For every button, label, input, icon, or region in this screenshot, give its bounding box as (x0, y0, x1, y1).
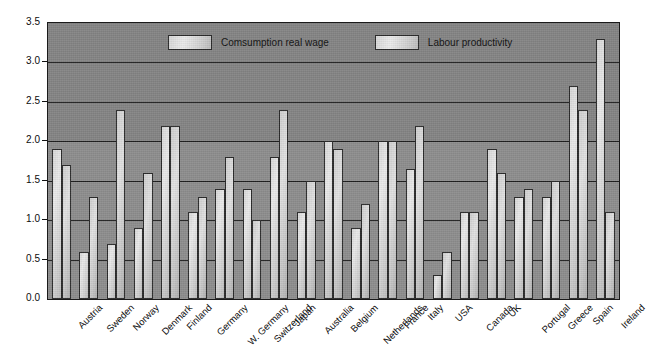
bar (279, 110, 288, 299)
bar (378, 141, 387, 299)
x-axis-tick-label: Sweden (104, 302, 136, 334)
bar (596, 39, 605, 299)
x-axis-tick-label: Australia (322, 302, 356, 336)
bar-group (510, 23, 537, 299)
bar (605, 212, 614, 299)
bar-group (184, 23, 211, 299)
legend-label-labour-productivity: Labour productivity (428, 37, 513, 48)
bar-group (48, 23, 75, 299)
bar (578, 110, 587, 299)
bar-group (130, 23, 157, 299)
y-axis-tick-label: 1.0 (0, 214, 40, 224)
legend-item-consumption-real-wage: Comsumption real wage (168, 35, 329, 50)
bar (460, 212, 469, 299)
y-axis-tick-label: 3.0 (0, 56, 40, 66)
bar (487, 149, 496, 299)
bar (442, 252, 451, 299)
bar (542, 197, 551, 300)
legend-swatch-labour-productivity (375, 35, 419, 50)
bar (333, 149, 342, 299)
x-axis-tick-label: Austria (75, 302, 104, 331)
bar-group (456, 23, 483, 299)
x-axis-tick-label: Spain (590, 302, 615, 327)
bar-group (157, 23, 184, 299)
bar (161, 126, 170, 299)
bar (116, 110, 125, 299)
bar-group (483, 23, 510, 299)
bar (469, 212, 478, 299)
x-axis-tick-label: Japan (292, 302, 318, 328)
bar (79, 252, 88, 299)
bar (215, 189, 224, 299)
bar-group (401, 23, 428, 299)
x-axis-tick-label: Portugal (539, 302, 572, 335)
y-axis-tick-label: 3.5 (0, 17, 40, 27)
legend-swatch-consumption-real-wage (168, 35, 212, 50)
bar (89, 197, 98, 300)
y-axis-tick-label: 1.5 (0, 175, 40, 185)
bar-group (320, 23, 347, 299)
plot-area: Comsumption real wage Labour productivit… (47, 22, 620, 300)
bar (551, 181, 560, 299)
bar (225, 157, 234, 299)
bar (324, 141, 333, 299)
bar-group (211, 23, 238, 299)
bar (297, 212, 306, 299)
y-axis-tick-label: 2.5 (0, 96, 40, 106)
bar (243, 189, 252, 299)
bar (306, 181, 315, 299)
x-axis-tick-label: USA (453, 302, 475, 324)
y-axis-tick-label: 0.0 (0, 293, 40, 303)
x-axis-tick-label: Italy (425, 302, 445, 322)
legend-label-consumption-real-wage: Comsumption real wage (221, 37, 329, 48)
bar (188, 212, 197, 299)
bar (514, 197, 523, 300)
bar (270, 157, 279, 299)
legend: Comsumption real wage Labour productivit… (168, 35, 512, 50)
bar-group (238, 23, 265, 299)
bar (52, 149, 61, 299)
bar (388, 141, 397, 299)
y-axis-tick-label: 2.0 (0, 135, 40, 145)
bar (524, 189, 533, 299)
bar (361, 204, 370, 299)
bar (406, 169, 415, 299)
bar-group (565, 23, 592, 299)
bar (252, 220, 261, 299)
bar-group (266, 23, 293, 299)
bar-group (75, 23, 102, 299)
bar (170, 126, 179, 299)
bar (433, 275, 442, 299)
bar (143, 173, 152, 299)
bar-group (537, 23, 564, 299)
bar (134, 228, 143, 299)
x-axis-tick-label: Germany (214, 302, 249, 337)
bar-group (347, 23, 374, 299)
legend-item-labour-productivity: Labour productivity (375, 35, 513, 50)
bar-series-container (48, 23, 619, 299)
x-axis-labels: AustriaSwedenNorwayDenmarkFinlandGermany… (47, 302, 620, 352)
x-axis-tick-label: Ireland (619, 302, 647, 330)
bar (351, 228, 360, 299)
x-axis-tick-label: Norway (130, 302, 161, 333)
bar-group (592, 23, 619, 299)
bar (569, 86, 578, 299)
bar (62, 165, 71, 299)
bar-group (374, 23, 401, 299)
bar (198, 197, 207, 300)
bar-group (102, 23, 129, 299)
y-axis-tick-label: 0.5 (0, 254, 40, 264)
bar-group (293, 23, 320, 299)
bar (497, 173, 506, 299)
bar-group (429, 23, 456, 299)
bar (415, 126, 424, 299)
bar (107, 244, 116, 299)
